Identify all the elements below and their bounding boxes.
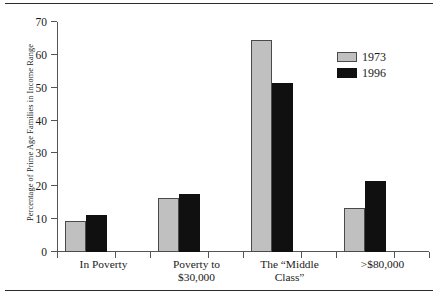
y-tick-label: 20	[36, 180, 48, 192]
chart-legend: 1973 1996	[337, 50, 386, 82]
y-tick-30: 30	[51, 152, 57, 153]
legend-swatch-1973	[337, 52, 357, 62]
bar-1973-4	[344, 208, 365, 252]
bar-1973-2	[158, 198, 179, 252]
y-tick-70: 70	[51, 21, 57, 22]
y-axis-title: Percentage of Prime Age Families in Inco…	[26, 8, 35, 258]
bar-group	[158, 22, 200, 252]
y-tick-label: 30	[36, 147, 48, 159]
y-tick-label: 40	[36, 115, 48, 127]
legend-swatch-1996	[337, 68, 357, 78]
y-tick-50: 50	[51, 87, 57, 88]
y-tick-label: 60	[36, 49, 48, 61]
y-tick-10: 10	[51, 218, 57, 219]
y-tick-label: 10	[36, 213, 48, 225]
legend-label-1973: 1973	[362, 51, 386, 63]
y-tick-20: 20	[51, 185, 57, 186]
top-rule	[5, 3, 433, 4]
y-tick-60: 60	[51, 54, 57, 55]
bar-group	[251, 22, 293, 252]
y-axis-line	[57, 22, 58, 252]
x-category-label: >$80,000	[324, 258, 438, 271]
bar-1996-1	[86, 215, 107, 252]
chart-page: Percentage of Prime Age Families in Inco…	[0, 0, 438, 303]
bar-1973-1	[65, 221, 86, 252]
bar-1996-3	[272, 83, 293, 252]
legend-label-1996: 1996	[362, 67, 386, 79]
legend-item-1973: 1973	[337, 50, 386, 64]
y-tick-label: 70	[36, 16, 48, 28]
bar-1973-3	[251, 40, 272, 252]
bar-1996-4	[365, 181, 386, 252]
y-tick-40: 40	[51, 120, 57, 121]
y-tick-label: 0	[41, 246, 47, 258]
bar-chart-figure: Percentage of Prime Age Families in Inco…	[0, 10, 438, 293]
legend-item-1996: 1996	[337, 66, 386, 80]
y-tick-label: 50	[36, 82, 48, 94]
bar-group	[65, 22, 107, 252]
bar-1996-2	[179, 194, 200, 252]
